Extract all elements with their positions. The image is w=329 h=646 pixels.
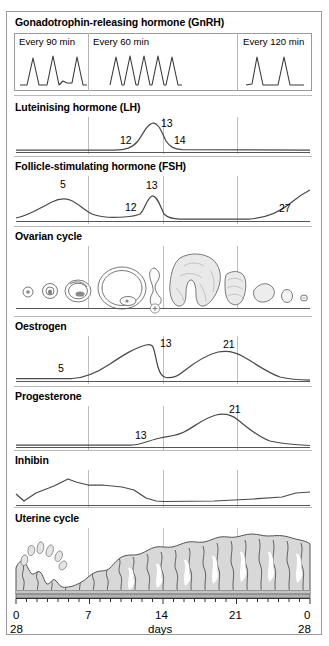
panel-inhibin: Inhibin [7,450,321,510]
panel-title-progesterone: Progesterone [15,390,82,402]
lh-label-14: 14 [174,134,186,146]
gnrh-caption-2: Every 60 min [93,36,149,47]
plot-inhibin [14,470,312,508]
xtick-7: 7 [85,609,91,621]
progesterone-label-21: 21 [229,403,241,415]
oestrogen-label-21: 21 [223,338,235,350]
panel-uterine: Uterine cycle [7,508,321,636]
panel-progesterone: Progesterone 13 21 [7,386,321,452]
fsh-label-27: 27 [279,202,291,214]
axis-label-days: days [148,623,172,635]
xtick-0-left: 0 [13,609,19,621]
xtick-28-right: 28 [298,623,311,635]
xtick-0-right: 0 [304,609,310,621]
oestrogen-label-5: 5 [58,362,64,374]
panel-title-lh: Luteinising hormone (LH) [15,101,140,113]
fsh-label-13: 13 [146,179,158,191]
panel-title-gnrh: Gonadotrophin-releasing hormone (GnRH) [15,16,224,28]
panel-title-uterine: Uterine cycle [15,512,79,524]
menstrual-cycle-figure: Gonadotrophin-releasing hormone (GnRH) E… [6,11,322,635]
panel-title-fsh: Follicle-stimulating hormone (FSH) [15,160,186,172]
progesterone-label-13: 13 [135,429,147,441]
panel-lh: Luteinising hormone (LH) 12 13 14 [7,98,321,158]
xtick-28-left: 28 [10,623,23,635]
panel-gnrh: Gonadotrophin-releasing hormone (GnRH) E… [7,12,321,98]
plot-uterine [14,528,312,610]
gnrh-caption-1: Every 90 min [19,36,75,47]
plot-ovarian [14,246,312,314]
lh-label-13: 13 [161,117,173,129]
panel-title-inhibin: Inhibin [15,454,49,466]
fsh-label-5: 5 [60,178,66,190]
gnrh-caption-3: Every 120 min [243,36,304,47]
fsh-label-12: 12 [125,201,137,213]
panel-fsh: Follicle-stimulating hormone (FSH) 5 12 … [7,156,321,228]
xtick-21: 21 [229,609,242,621]
panel-title-ovarian: Ovarian cycle [15,230,82,242]
panel-title-oestrogen: Oestrogen [15,320,67,332]
plot-fsh [14,176,312,224]
oestrogen-label-13: 13 [160,337,172,349]
plot-progesterone [14,406,312,450]
lh-label-12: 12 [120,134,132,146]
panel-ovarian: Ovarian cycle [7,226,321,318]
xtick-14: 14 [155,609,168,621]
panel-oestrogen: Oestrogen 5 13 21 [7,316,321,388]
